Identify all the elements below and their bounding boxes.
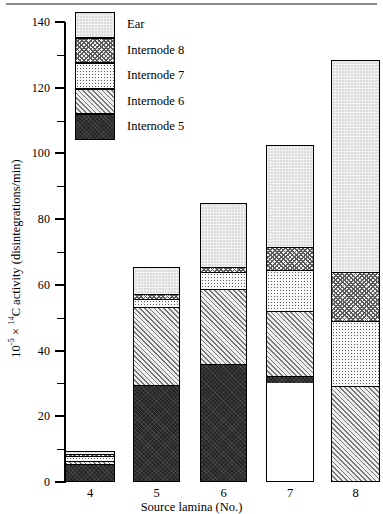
bar-segment-internode-7[interactable] <box>332 321 379 386</box>
legend-label: Internode 5 <box>127 119 184 134</box>
bar-segment-internode-7[interactable] <box>201 272 246 288</box>
bar-segment-internode-5[interactable] <box>134 385 179 481</box>
bar-segment-internode-5[interactable] <box>267 376 313 383</box>
legend-swatch-icon <box>75 38 115 64</box>
bar-column-8[interactable] <box>331 60 380 482</box>
legend-label: Ear <box>127 17 144 32</box>
bar-column-6[interactable] <box>200 203 247 482</box>
chart-container: 020406080100120140 10-5 × 14C activity (… <box>0 0 383 514</box>
bar-column-5[interactable] <box>133 267 180 482</box>
x-axis-tick-label-5: 5 <box>137 486 177 501</box>
x-axis-tick-label-6: 6 <box>204 486 244 501</box>
bar-segment-internode-8[interactable] <box>267 247 313 270</box>
x-axis-tick-label-8: 8 <box>336 486 376 501</box>
legend-swatch-icon <box>75 114 115 140</box>
legend-swatch-icon <box>75 63 115 89</box>
legend-swatch-icon <box>75 89 115 115</box>
y-axis-title-suffix: C activity (disintegrations/min) <box>9 159 23 316</box>
legend-label: Internode 7 <box>127 68 184 83</box>
bar-segment-internode-6[interactable] <box>201 289 246 364</box>
bar-segment-internode-5[interactable] <box>66 464 114 481</box>
bar-segment-internode-8[interactable] <box>332 272 379 321</box>
y-axis-title-times: × <box>9 325 23 338</box>
x-axis-tick-label-4: 4 <box>70 486 110 501</box>
y-axis-title-wrap: 10-5 × 14C activity (disintegrations/min… <box>0 0 20 514</box>
bar-column-4[interactable] <box>65 451 115 482</box>
x-axis-title: Source lamina (No.) <box>0 500 383 514</box>
bar-segment-internode-7[interactable] <box>267 270 313 311</box>
bar-segment-ear[interactable] <box>201 204 246 268</box>
y-axis-title-prefix: 10 <box>9 345 23 358</box>
y-axis-title-exponent-1: -5 <box>6 338 16 345</box>
y-axis-title-exponent-2: 14 <box>6 316 16 325</box>
x-axis-tick-label-7: 7 <box>270 486 310 501</box>
legend-swatch-icon <box>75 12 115 38</box>
bar-segment-ear[interactable] <box>134 268 179 294</box>
bar-segment-ear[interactable] <box>332 61 379 272</box>
bar-segment-internode-6[interactable] <box>267 311 313 376</box>
y-axis-title: 10-5 × 14C activity (disintegrations/min… <box>6 59 23 459</box>
bar-column-7[interactable] <box>266 145 314 482</box>
bar-segment-internode-6[interactable] <box>134 307 179 385</box>
top-divider-rule <box>6 3 377 5</box>
bar-segment-ear[interactable] <box>267 146 313 247</box>
legend-label: Internode 6 <box>127 94 184 109</box>
bar-segment-internode-6[interactable] <box>332 386 379 481</box>
legend-label: Internode 8 <box>127 43 184 58</box>
bar-segment-internode-7[interactable] <box>134 299 179 307</box>
bar-segment-internode-5[interactable] <box>201 364 246 481</box>
